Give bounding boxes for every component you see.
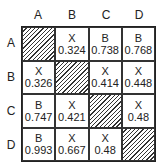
cell-value: 0.326 (25, 77, 53, 89)
row-label-a: A (4, 26, 18, 60)
cell-a-a-diagonal (22, 27, 55, 61)
cell-winner: X (68, 99, 75, 111)
cell-c-b: X0.421 (55, 94, 88, 128)
cell-value: 0.48 (94, 144, 115, 156)
cell-b-c: X0.414 (89, 61, 122, 95)
cell-a-c: B0.738 (89, 27, 122, 61)
cell-b-a: X0.326 (22, 61, 55, 95)
cell-value: 0.768 (125, 44, 153, 56)
cell-c-c-diagonal (89, 94, 122, 128)
cell-d-d-diagonal (122, 128, 155, 162)
cell-value: 0.448 (125, 77, 153, 89)
row-label-d: D (4, 128, 18, 162)
cell-b-d: X0.448 (122, 61, 155, 95)
cell-value: 0.667 (58, 144, 86, 156)
cell-value: 0.993 (25, 144, 53, 156)
column-label-d: D (122, 8, 156, 22)
cell-value: 0.48 (128, 111, 149, 123)
cell-value: 0.738 (91, 44, 119, 56)
cell-value: 0.324 (58, 44, 86, 56)
cell-winner: X (68, 132, 75, 144)
cell-d-a: B0.993 (22, 128, 55, 162)
cell-c-d: X0.48 (122, 94, 155, 128)
cell-winner: X (35, 65, 42, 77)
cell-winner: X (135, 65, 142, 77)
cell-winner: B (135, 32, 142, 44)
cell-winner: X (135, 99, 142, 111)
cell-winner: X (68, 32, 75, 44)
cell-winner: B (35, 132, 42, 144)
cell-a-b: X0.324 (55, 27, 88, 61)
cell-value: 0.421 (58, 111, 86, 123)
column-label-c: C (89, 8, 123, 22)
cell-winner: B (101, 32, 108, 44)
row-label-c: C (4, 94, 18, 128)
row-label-b: B (4, 60, 18, 94)
cell-value: 0.414 (91, 77, 119, 89)
cell-c-a: B0.747 (22, 94, 55, 128)
comparison-matrix: X0.324 B0.738 B0.768 X0.326 X0.414 X0.44… (21, 26, 156, 162)
cell-winner: X (101, 132, 108, 144)
cell-winner: X (101, 65, 108, 77)
column-label-b: B (55, 8, 89, 22)
cell-value: 0.747 (25, 111, 53, 123)
cell-d-b: X0.667 (55, 128, 88, 162)
cell-d-c: X0.48 (89, 128, 122, 162)
column-label-a: A (21, 8, 55, 22)
cell-a-d: B0.768 (122, 27, 155, 61)
cell-winner: B (35, 99, 42, 111)
cell-b-b-diagonal (55, 61, 88, 95)
